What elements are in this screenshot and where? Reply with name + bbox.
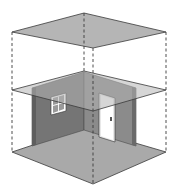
top-plane xyxy=(12,13,166,48)
diagram-canvas: Isometric room with horizontal section p… xyxy=(0,0,179,193)
room-section-diagram xyxy=(0,0,179,193)
